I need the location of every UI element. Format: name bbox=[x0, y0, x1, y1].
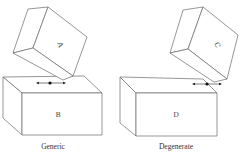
block-b: B bbox=[3, 76, 102, 135]
panel-degenerate: D C Degenerate bbox=[120, 7, 238, 151]
block-d: D bbox=[120, 77, 217, 136]
figure-canvas: B A Generic bbox=[0, 0, 245, 153]
block-contact-diagram: B A Generic bbox=[0, 0, 245, 153]
caption-generic: Generic bbox=[41, 142, 65, 151]
contact-point-icon bbox=[205, 82, 208, 85]
block-c: C bbox=[170, 7, 238, 82]
block-d-label: D bbox=[173, 111, 179, 119]
caption-degenerate: Degenerate bbox=[159, 142, 194, 151]
block-b-front-face bbox=[22, 93, 102, 135]
block-d-top-face bbox=[120, 77, 217, 93]
panel-generic: B A Generic bbox=[3, 7, 102, 151]
block-b-label: B bbox=[55, 111, 60, 119]
arrow-right-head-icon bbox=[219, 83, 222, 85]
block-a: A bbox=[13, 7, 87, 80]
contact-point-icon bbox=[48, 81, 51, 84]
